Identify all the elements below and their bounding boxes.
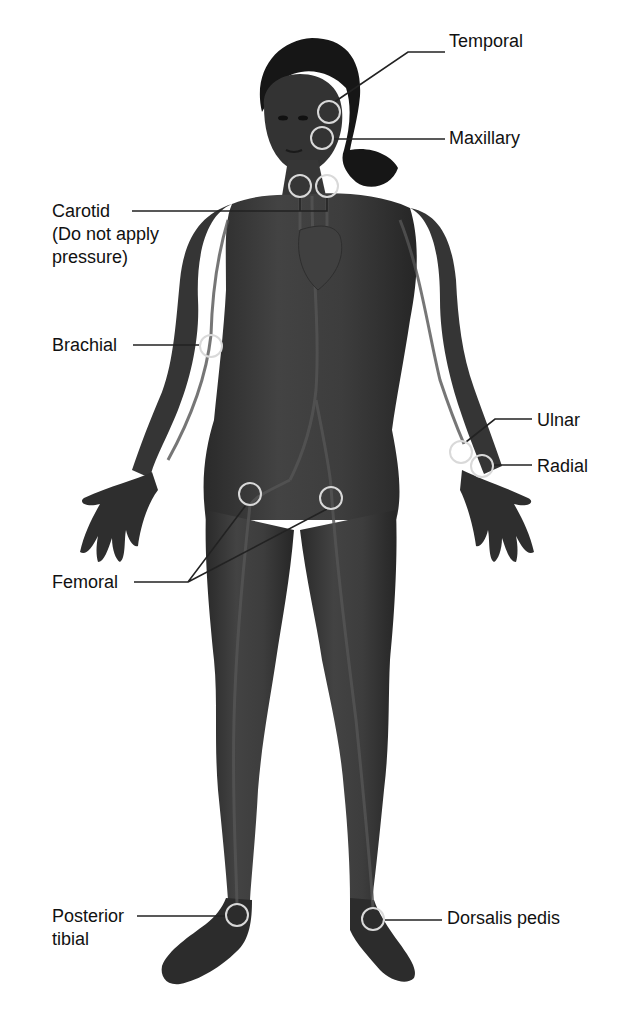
label-dorsalis-pedis: Dorsalis pedis [447,907,560,930]
body-illustration [0,0,630,1011]
label-radial: Radial [537,455,588,478]
label-carotid: Carotid (Do not apply pressure) [52,200,159,269]
label-maxillary: Maxillary [449,127,520,150]
pulse-points-diagram: Temporal Maxillary Carotid (Do not apply… [0,0,630,1011]
label-posterior-tibial: Posterior tibial [52,905,124,951]
label-femoral: Femoral [52,571,118,594]
label-temporal: Temporal [449,30,523,53]
label-ulnar: Ulnar [537,409,580,432]
label-brachial: Brachial [52,334,117,357]
pulse-circle-ulnar [450,441,472,463]
body-silhouette [80,160,534,984]
